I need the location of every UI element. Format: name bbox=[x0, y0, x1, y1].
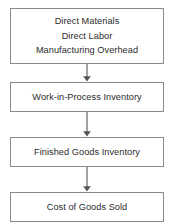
node-label-finished-goods-inventory: Finished Goods Inventory bbox=[34, 145, 140, 160]
flowchart-canvas: Direct Materials Direct Labor Manufactur… bbox=[0, 0, 174, 224]
arrow-inputs-to-wip bbox=[83, 64, 91, 82]
node-manufacturing-inputs: Direct Materials Direct Labor Manufactur… bbox=[10, 8, 164, 64]
arrow-finished-goods-to-cogs bbox=[83, 167, 91, 192]
node-line-direct-materials: Direct Materials bbox=[55, 14, 120, 29]
node-label-work-in-process-inventory: Work-in-Process Inventory bbox=[32, 90, 141, 105]
node-work-in-process-inventory: Work-in-Process Inventory bbox=[10, 82, 164, 112]
node-cost-of-goods-sold: Cost of Goods Sold bbox=[10, 192, 164, 222]
node-line-direct-labor: Direct Labor bbox=[62, 29, 113, 44]
node-finished-goods-inventory: Finished Goods Inventory bbox=[10, 137, 164, 167]
node-label-cost-of-goods-sold: Cost of Goods Sold bbox=[47, 200, 128, 215]
node-line-manufacturing-overhead: Manufacturing Overhead bbox=[36, 43, 138, 58]
arrow-wip-to-finished-goods bbox=[83, 112, 91, 137]
